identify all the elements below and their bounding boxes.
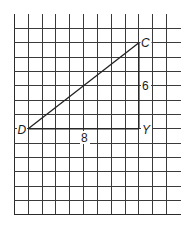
- grid-triangle-diagram: D Y C 6 8: [0, 0, 190, 225]
- side-length-dy: 8: [81, 131, 88, 145]
- vertex-label-y: Y: [142, 123, 151, 137]
- vertex-label-d: D: [18, 123, 27, 137]
- graph-paper-grid: [14, 14, 180, 215]
- vertex-label-c: C: [141, 36, 150, 50]
- side-length-yc: 6: [142, 79, 149, 93]
